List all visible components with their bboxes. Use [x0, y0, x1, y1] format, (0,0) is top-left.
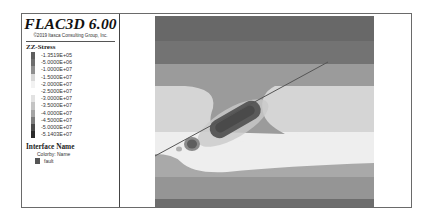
- legend-panel: FLAC3D 6.00 ©2019 Itasca Consulting Grou…: [22, 14, 119, 207]
- scale-label: -1.0000E+07: [41, 66, 72, 73]
- scale-swatch: [31, 66, 35, 73]
- scale-label: -4.0000E+07: [41, 110, 72, 117]
- colorby-label: Colorby: Name: [37, 151, 70, 157]
- scale-row: -3.5000E+07: [31, 102, 72, 109]
- scale-swatch: [31, 74, 35, 81]
- stress-blob-small: [176, 147, 182, 152]
- scale-label: -5.0000E+07: [41, 124, 72, 131]
- scale-row: -1.5000E+07: [31, 74, 72, 81]
- interface-legend-item: fault: [35, 158, 53, 164]
- scale-swatch: [31, 117, 35, 124]
- scale-label: -4.5000E+07: [41, 117, 72, 124]
- scale-row: -3.0000E+07: [31, 95, 72, 102]
- scale-row: -2.5000E+07: [31, 88, 72, 95]
- scale-row: -1.3519E+05: [31, 52, 72, 59]
- scale-swatch: [31, 81, 35, 88]
- scale-swatch: [31, 95, 35, 102]
- app-title: FLAC3D 6.00: [22, 15, 119, 33]
- contour-plot-canvas: [155, 16, 374, 207]
- scale-label: -1.5000E+07: [41, 74, 72, 81]
- stress-band: [155, 41, 374, 64]
- figure-frame: FLAC3D 6.00 ©2019 Itasca Consulting Grou…: [21, 13, 412, 208]
- scale-label: -5.1403E+07: [41, 131, 72, 138]
- stress-band: [155, 177, 374, 199]
- panel-divider: [119, 14, 120, 207]
- scale-row: -5.1403E+07: [31, 131, 72, 138]
- fault-swatch: [35, 158, 40, 164]
- scale-row: -4.0000E+07: [31, 110, 72, 117]
- scale-swatch: [31, 124, 35, 131]
- scale-swatch: [31, 110, 35, 117]
- scale-row: -5.0000E+06: [31, 59, 72, 66]
- scale-label: -5.0000E+06: [41, 59, 72, 66]
- scale-swatch: [31, 102, 35, 109]
- scale-label: -2.5000E+07: [41, 88, 72, 95]
- contour-plot[interactable]: [155, 16, 374, 207]
- scale-row: -1.0000E+07: [31, 66, 72, 73]
- scale-swatch: [31, 59, 35, 66]
- scale-label: -3.0000E+07: [41, 95, 72, 102]
- scale-row: -5.0000E+07: [31, 124, 72, 131]
- scale-swatch: [31, 131, 35, 138]
- scale-swatch: [31, 88, 35, 95]
- title-divider: [26, 41, 115, 42]
- copyright-text: ©2019 Itasca Consulting Group, Inc.: [22, 33, 119, 38]
- scale-row: -2.0000E+07: [31, 81, 72, 88]
- stress-band: [155, 199, 374, 207]
- interface-title: Interface Name: [26, 142, 74, 151]
- contour-title: ZZ-Stress: [26, 43, 55, 51]
- scale-swatch: [31, 52, 35, 59]
- scale-label: -1.3519E+05: [41, 52, 72, 59]
- stress-blob-inner: [187, 140, 197, 149]
- scale-row: -4.5000E+07: [31, 117, 72, 124]
- stress-band: [155, 16, 374, 41]
- scale-label: -2.0000E+07: [41, 81, 72, 88]
- scale-label: -3.5000E+07: [41, 102, 72, 109]
- fault-label: fault: [44, 158, 53, 164]
- color-scale: -1.3519E+05-5.0000E+06-1.0000E+07-1.5000…: [31, 52, 72, 138]
